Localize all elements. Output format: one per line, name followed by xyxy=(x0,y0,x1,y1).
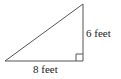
right-angle-marker xyxy=(76,54,83,61)
vertical-side-label: 6 feet xyxy=(86,28,111,39)
right-triangle xyxy=(5,4,83,61)
horizontal-side-label: 8 feet xyxy=(33,64,58,75)
triangle-figure xyxy=(0,0,121,79)
